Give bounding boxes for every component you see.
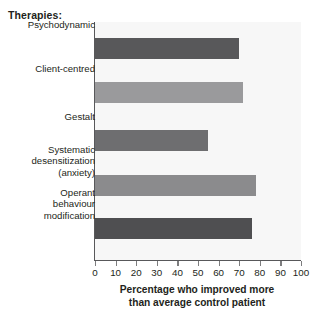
tick-mark-60 (219, 261, 220, 266)
category-label-line: Gestalt (3, 111, 95, 122)
bar-fill (95, 218, 252, 239)
x-axis-title-line: Percentage who improved more (88, 284, 306, 297)
category-label-line: Psychodynamic (3, 19, 95, 30)
bar-3 (95, 130, 208, 151)
tick-mark-100 (301, 261, 302, 266)
category-label-line: (anxiety) (3, 167, 95, 178)
tick-label-60: 60 (213, 267, 224, 278)
category-label-line: Operant (3, 187, 95, 198)
tick-mark-10 (116, 261, 117, 266)
tick-label-50: 50 (193, 267, 204, 278)
bar-1 (95, 38, 239, 59)
tick-mark-90 (280, 261, 281, 266)
tick-label-80: 80 (254, 267, 265, 278)
bars-layer (95, 22, 301, 260)
category-label-line: modification (3, 210, 95, 221)
tick-mark-20 (136, 261, 137, 266)
category-label-3: Gestalt (3, 111, 95, 122)
x-axis-title: Percentage who improved morethan average… (88, 284, 306, 309)
tick-mark-50 (198, 261, 199, 266)
x-axis-title-line: than average control patient (88, 297, 306, 310)
category-label-4: Systematicdesensitization(anxiety) (3, 144, 95, 178)
tick-label-10: 10 (110, 267, 121, 278)
tick-label-90: 90 (275, 267, 286, 278)
tick-label-100: 100 (293, 267, 309, 278)
bar-fill (95, 82, 243, 103)
bar-fill (95, 38, 239, 59)
bar-2 (95, 82, 243, 103)
category-label-line: desensitization (3, 155, 95, 166)
bar-fill (95, 130, 208, 151)
category-label-line: behaviour (3, 198, 95, 209)
bar-fill (95, 175, 256, 196)
category-label-2: Client-centred (3, 63, 95, 74)
tick-mark-30 (157, 261, 158, 266)
tick-label-20: 20 (131, 267, 142, 278)
category-label-line: Systematic (3, 144, 95, 155)
bar-chart: Therapies: PsychodynamicClient-centredGe… (0, 0, 310, 311)
tick-label-0: 0 (92, 267, 97, 278)
tick-label-40: 40 (172, 267, 183, 278)
category-label-1: Psychodynamic (3, 19, 95, 30)
tick-label-70: 70 (234, 267, 245, 278)
tick-label-30: 30 (151, 267, 162, 278)
tick-mark-70 (239, 261, 240, 266)
bar-5 (95, 218, 252, 239)
tick-mark-40 (177, 261, 178, 266)
category-label-line: Client-centred (3, 63, 95, 74)
bar-4 (95, 175, 256, 196)
category-label-5: Operantbehaviourmodification (3, 187, 95, 221)
tick-mark-0 (95, 261, 96, 266)
tick-mark-80 (260, 261, 261, 266)
